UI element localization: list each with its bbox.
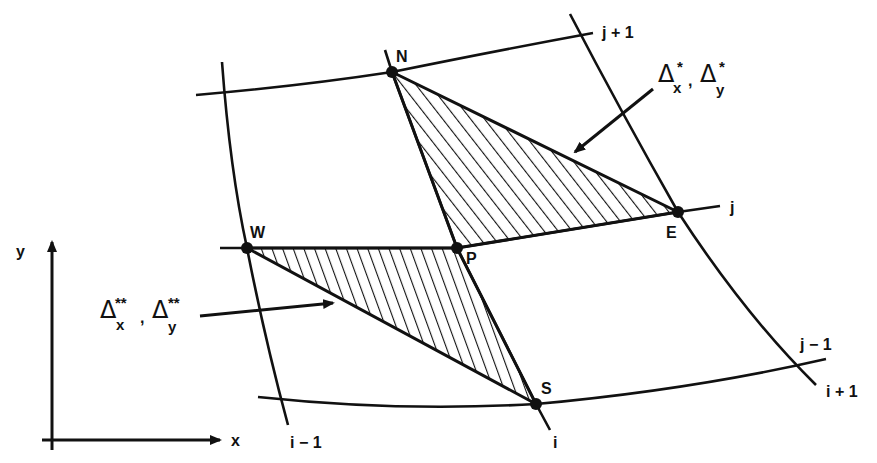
arrow-lower-annotation bbox=[200, 303, 333, 316]
grid-line-i-minus-1 bbox=[222, 62, 288, 425]
grid-line-j-plus-1 bbox=[196, 33, 593, 95]
triangle-npe-hatched bbox=[392, 72, 678, 248]
annotation-upper-separator: , bbox=[688, 72, 692, 89]
node-s-label: S bbox=[541, 380, 552, 397]
delta-y-dstar-sub: y bbox=[168, 318, 177, 335]
label-j: j bbox=[729, 199, 734, 216]
node-p-dot bbox=[451, 242, 463, 254]
label-i-minus-1: i − 1 bbox=[290, 434, 322, 451]
node-n-dot bbox=[386, 66, 398, 78]
node-n-label: N bbox=[396, 48, 408, 65]
node-e-label: E bbox=[666, 224, 677, 241]
annotation-upper: Δ x * , Δ y * bbox=[658, 58, 725, 98]
delta-y-star-sup: * bbox=[719, 58, 725, 75]
label-j-plus-1: j + 1 bbox=[601, 24, 634, 41]
x-axis-label: x bbox=[231, 432, 240, 449]
label-i: i bbox=[553, 434, 557, 451]
delta-y-star-sub: y bbox=[716, 81, 725, 98]
annotation-lower-separator: , bbox=[140, 309, 144, 326]
delta-x-dstar-sub: x bbox=[116, 316, 125, 333]
delta-y-dstar-symbol: Δ bbox=[152, 296, 169, 324]
triangle-wps-hatched bbox=[247, 248, 536, 404]
label-i-plus-1: i + 1 bbox=[826, 383, 858, 400]
node-s-dot bbox=[530, 398, 542, 410]
delta-y-dstar-sup: ** bbox=[168, 294, 180, 311]
label-j-minus-1: j − 1 bbox=[799, 336, 832, 353]
delta-y-star-symbol: Δ bbox=[700, 60, 717, 88]
node-w-dot bbox=[241, 242, 253, 254]
grid-diagram: y x N E P W S j + 1 j j − 1 i − 1 i i + … bbox=[0, 0, 877, 463]
node-p-label: P bbox=[466, 250, 477, 267]
node-w-label: W bbox=[250, 224, 266, 241]
annotation-lower: Δ x ** , Δ y ** bbox=[100, 294, 180, 335]
delta-x-star-sub: x bbox=[673, 79, 682, 96]
delta-x-dstar-sup: ** bbox=[115, 294, 127, 311]
node-e-dot bbox=[672, 206, 684, 218]
delta-x-star-sup: * bbox=[677, 58, 683, 75]
y-axis-label: y bbox=[16, 243, 25, 260]
